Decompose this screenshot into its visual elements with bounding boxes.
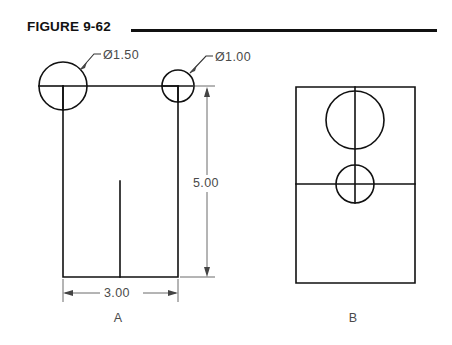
view-label-b: B [349,311,358,325]
view-a-geometry [39,62,194,277]
callout-diameter-1-50: Ø1.50 [103,48,139,62]
figure-sheet: FIGURE 9-62 [0,0,452,345]
view-label-a: A [114,311,123,325]
dimension-text-height: 5.00 [193,176,219,190]
dimension-text-width: 3.00 [104,286,130,300]
leader-diameter-1-00 [190,56,213,73]
callout-diameter-1-00: Ø1.00 [215,50,251,64]
leader-diameter-1-50 [80,54,101,70]
technical-drawing-canvas: Ø1.50 Ø1.00 5.00 3.00 A B [0,0,452,345]
view-b-geometry [296,87,415,283]
